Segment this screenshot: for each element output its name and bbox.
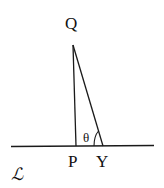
segment-qp: [73, 45, 76, 146]
label-q: Q: [65, 14, 77, 33]
angle-arc: [94, 131, 99, 146]
label-y: Y: [96, 152, 108, 171]
line-l: [11, 146, 154, 147]
label-theta: θ: [83, 130, 89, 145]
diagram-canvas: Q θ P Y ℒ: [0, 0, 164, 188]
label-p: P: [68, 152, 77, 171]
label-line-l: ℒ: [11, 165, 24, 184]
